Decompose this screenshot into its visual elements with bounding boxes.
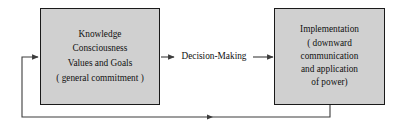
node-knowledge-line-4: ( general commitment ) [56, 71, 144, 86]
node-implementation-line-1: Implementation [300, 23, 359, 36]
diagram-canvas: Knowledge Consciousness Values and Goals… [0, 0, 409, 131]
node-knowledge-line-1: Knowledge [79, 27, 122, 42]
node-knowledge-line-2: Consciousness [73, 42, 128, 57]
node-implementation-line-5: of power) [311, 76, 347, 89]
node-knowledge-box: Knowledge Consciousness Values and Goals… [40, 8, 160, 105]
node-implementation-line-4: and application [301, 63, 358, 76]
node-implementation-line-2: ( downward [307, 37, 352, 50]
node-implementation-line-3: communication [301, 50, 359, 63]
node-implementation-box: Implementation ( downward communication … [274, 8, 385, 105]
node-knowledge-line-3: Values and Goals [68, 57, 133, 72]
edge-label-decision-making: Decision-Making [178, 50, 250, 63]
